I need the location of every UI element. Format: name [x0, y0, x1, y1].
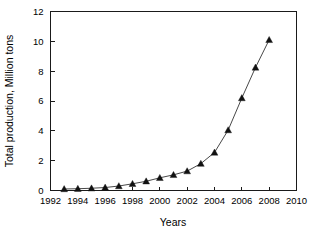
x-tick-label: 1994 — [67, 195, 88, 206]
x-tick-label: 2000 — [149, 195, 170, 206]
x-tick-label: 2002 — [177, 195, 198, 206]
y-tick-label: 6 — [38, 95, 43, 106]
y-tick-label: 8 — [38, 66, 43, 77]
x-tick-label: 2010 — [286, 195, 307, 206]
y-tick-label: 12 — [33, 6, 44, 17]
data-point-marker — [211, 149, 218, 155]
y-axis-tick-labels: 024681012 — [33, 6, 44, 196]
data-point-marker — [266, 36, 273, 42]
y-axis-title: Total production, Million tons — [3, 35, 15, 168]
x-tick-label: 2008 — [259, 195, 280, 206]
plot-frame — [51, 12, 297, 191]
line-chart-svg: 024681012 199219941996199820002002200420… — [0, 0, 314, 235]
x-tick-label: 2006 — [231, 195, 252, 206]
data-point-marker — [184, 168, 191, 174]
series-markers — [61, 36, 273, 191]
data-point-marker — [252, 64, 259, 70]
data-point-marker — [238, 95, 245, 101]
x-tick-label: 1996 — [95, 195, 116, 206]
x-tick-label: 1992 — [40, 195, 61, 206]
x-tick-label: 2004 — [204, 195, 225, 206]
x-axis-title: Years — [160, 216, 186, 228]
data-point-marker — [225, 127, 232, 133]
x-tick-label: 1998 — [122, 195, 143, 206]
y-tick-label: 10 — [33, 36, 44, 47]
y-tick-label: 2 — [38, 155, 43, 166]
series-line-total-production — [64, 40, 269, 189]
y-tick-label: 4 — [38, 125, 43, 136]
x-axis-tick-labels: 1992199419961998200020022004200620082010 — [40, 195, 307, 206]
chart-figure: 024681012 199219941996199820002002200420… — [0, 0, 314, 235]
axis-tick-marks — [51, 12, 297, 191]
